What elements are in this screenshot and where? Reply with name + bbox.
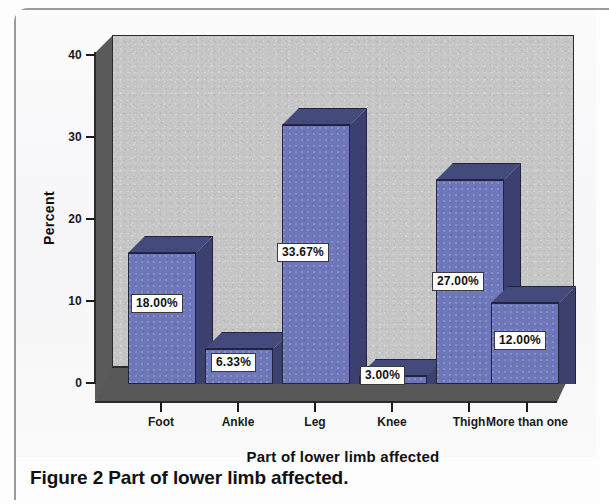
y-tick-label-30: 30 bbox=[48, 130, 82, 144]
figure-caption: Figure 2 Part of lower limb affected. bbox=[30, 467, 348, 489]
y-tick-mark-0 bbox=[86, 382, 95, 384]
bar-label-more-than-one: 12.00% bbox=[494, 331, 546, 350]
plot-left-wall bbox=[95, 35, 113, 401]
bar-foot-texture bbox=[129, 254, 195, 383]
y-tick-label-0: 0 bbox=[48, 376, 82, 390]
y-tick-mark-30 bbox=[86, 136, 95, 138]
x-tick-mark-ankle bbox=[237, 402, 239, 412]
y-tick-label-20: 20 bbox=[48, 212, 82, 226]
y-tick-mark-10 bbox=[86, 300, 95, 302]
bar-label-ankle: 6.33% bbox=[211, 353, 256, 372]
bar-foot-front-face bbox=[128, 253, 196, 384]
bar-leg-side-face bbox=[350, 108, 367, 384]
bar-label-knee: 3.00% bbox=[360, 366, 405, 385]
y-tick-label-10: 10 bbox=[48, 294, 82, 308]
bar-label-foot: 18.00% bbox=[131, 294, 183, 313]
x-tick-mark-more-than-one bbox=[526, 402, 528, 412]
x-tick-mark-knee bbox=[391, 402, 393, 412]
x-tick-label-more-than-one: More than one bbox=[481, 416, 573, 429]
x-axis-title: Part of lower limb affected bbox=[112, 448, 574, 465]
y-tick-mark-40 bbox=[86, 54, 95, 56]
y-tick-label-40: 40 bbox=[48, 48, 82, 62]
y-tick-mark-20 bbox=[86, 218, 95, 220]
x-axis-line bbox=[95, 401, 557, 403]
x-tick-mark-foot bbox=[160, 402, 162, 412]
bar-label-leg: 33.67% bbox=[277, 243, 329, 262]
bar-more-than-one-side-face bbox=[559, 286, 576, 384]
x-tick-mark-thigh bbox=[468, 402, 470, 412]
x-tick-mark-leg bbox=[314, 402, 316, 412]
bar-label-thigh: 27.00% bbox=[432, 272, 484, 291]
